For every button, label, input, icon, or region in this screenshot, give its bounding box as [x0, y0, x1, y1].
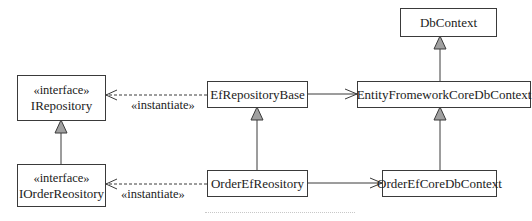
stereotype-label: «interface»: [33, 171, 89, 186]
generalization-efcoredbcontext-dbcontext: [434, 36, 446, 81]
class-name: IOrderReository: [19, 186, 104, 201]
class-efcoredbcontext: EntityFromeworkCoreDbContext: [357, 81, 531, 108]
generalization-orderefcoredbcontext-efcoredbcontext: [434, 107, 446, 170]
class-name: DbContext: [420, 15, 477, 30]
class-orderefcoredbcontext: OrderEfCoreDbContext: [382, 170, 497, 197]
class-name: OrderEfCoreDbContext: [377, 176, 502, 191]
caption-remnant: [205, 212, 355, 216]
instantiate-label-top: «instantiate»: [131, 98, 195, 113]
class-iorderrepository: «interface» IOrderReository: [17, 164, 106, 207]
class-efrepositorybase: EfRepositoryBase: [207, 81, 308, 108]
generalization-iorderrepository-irepository: [55, 120, 67, 164]
generalization-orderefrepository-efrepositorybase: [251, 107, 263, 170]
class-name: EntityFromeworkCoreDbContext: [357, 87, 532, 102]
uml-diagram: «interface» IRepository «interface» IOrd…: [0, 0, 532, 221]
class-name: EfRepositoryBase: [210, 87, 305, 102]
association-efrepositorybase-efcoredbcontext: [307, 89, 357, 99]
instantiate-label-bottom: «instantiate»: [121, 187, 185, 202]
class-name: IRepository: [31, 98, 92, 113]
association-orderefrepository-orderefcoredbcontext: [307, 178, 382, 188]
class-dbcontext: DbContext: [400, 8, 497, 37]
stereotype-label: «interface»: [33, 83, 89, 98]
class-irepository: «interface» IRepository: [17, 75, 106, 121]
class-orderefrepository: OrderEfReository: [207, 170, 308, 197]
class-name: OrderEfReository: [211, 176, 304, 191]
